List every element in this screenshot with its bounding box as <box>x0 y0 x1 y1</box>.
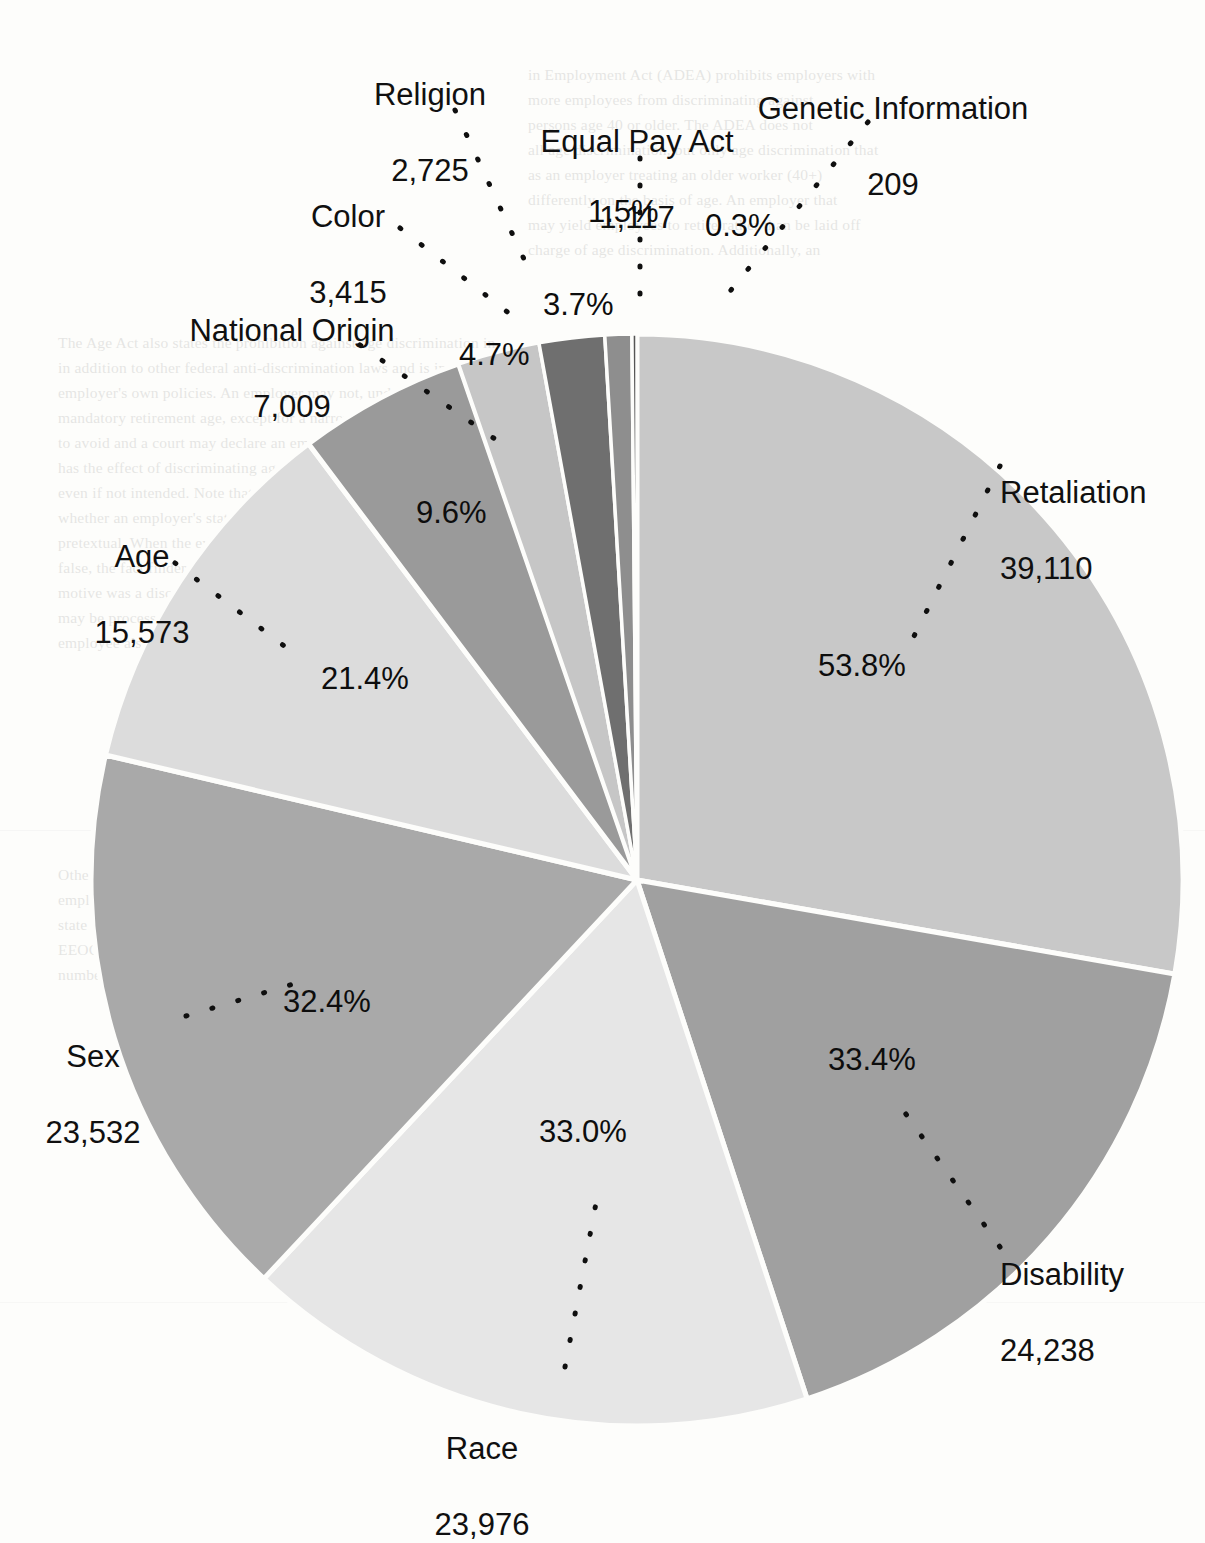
pie-label-disability: Disability 24,238 <box>1000 1218 1205 1408</box>
pie-label-national-origin-value: 7,009 <box>142 388 442 426</box>
pie-label-retaliation: Retaliation 39,110 <box>1000 436 1205 626</box>
pie-percent-religion-text: 3.7% <box>543 287 614 322</box>
pie-label-race: Race 23,976 <box>382 1392 582 1543</box>
pie-percent-sex-text: 32.4% <box>283 984 371 1019</box>
pie-label-sex: Sex 23,532 <box>8 1000 178 1190</box>
pie-percent-retaliation-text: 53.8% <box>818 648 906 683</box>
pie-percent-equal-pay-act: 1.5% <box>588 195 659 229</box>
pie-label-disability-name: Disability <box>1000 1256 1205 1294</box>
pie-label-age: Age 15,573 <box>42 500 242 690</box>
pie-label-race-name: Race <box>382 1430 582 1468</box>
pie-label-retaliation-value: 39,110 <box>1000 550 1205 588</box>
pie-percent-equal-pay-act-text: 1.5% <box>588 194 659 229</box>
pie-label-age-name: Age <box>42 538 242 576</box>
pie-percent-race-text: 33.0% <box>539 1114 627 1149</box>
pie-percent-retaliation: 53.8% <box>818 649 906 683</box>
pie-percent-national-origin-text: 9.6% <box>416 495 487 530</box>
pie-label-color-name: Color <box>228 198 468 236</box>
pie-percent-sex: 32.4% <box>283 985 371 1019</box>
pie-percent-race: 33.0% <box>539 1115 627 1149</box>
pie-label-disability-value: 24,238 <box>1000 1332 1205 1370</box>
pie-percent-color: 4.7% <box>459 338 530 372</box>
pie-label-genetic-information-name: Genetic Information <box>713 90 1073 128</box>
pie-label-national-origin: National Origin 7,009 <box>142 274 442 464</box>
pie-label-retaliation-name: Retaliation <box>1000 474 1205 512</box>
pie-label-national-origin-name: National Origin <box>142 312 442 350</box>
pie-label-sex-name: Sex <box>8 1038 178 1076</box>
pie-percent-disability-text: 33.4% <box>828 1042 916 1077</box>
pie-percent-age: 21.4% <box>321 662 409 696</box>
pie-percent-genetic-information: 0.3% <box>705 209 776 243</box>
pie-percent-color-text: 4.7% <box>459 337 530 372</box>
pie-percent-age-text: 21.4% <box>321 661 409 696</box>
pie-label-genetic-information-value: 209 <box>713 166 1073 204</box>
pie-label-age-value: 15,573 <box>42 614 242 652</box>
pie-percent-genetic-information-text: 0.3% <box>705 208 776 243</box>
pie-label-race-value: 23,976 <box>382 1506 582 1543</box>
pie-percent-religion: 3.7% <box>543 288 614 322</box>
pie-label-sex-value: 23,532 <box>8 1114 178 1152</box>
pie-slice[interactable] <box>637 334 1183 974</box>
pie-percent-national-origin: 9.6% <box>416 496 487 530</box>
pie-percent-disability: 33.4% <box>828 1043 916 1077</box>
